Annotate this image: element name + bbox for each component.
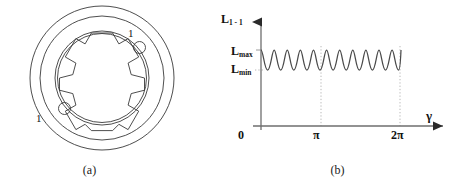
y-axis-title-sub: 1 - 1	[229, 18, 243, 27]
panel-b-caption: (b)	[215, 163, 460, 178]
y-tick-label-lmin: Lmin	[231, 62, 251, 77]
coil-circle-top	[134, 42, 146, 54]
panel-a-caption: (a)	[0, 163, 197, 178]
stator-bore-circle	[55, 31, 149, 125]
rotor-toothed-profile	[60, 33, 145, 131]
inductance-curve	[261, 50, 401, 70]
x-tick-label-2pi: 2π	[391, 128, 404, 143]
y-tick-label-lmax: Lmax	[231, 44, 253, 59]
y-axis-title: L1 - 1	[221, 12, 243, 27]
lmin-main: L	[231, 62, 239, 76]
coil-label-top: 1	[128, 27, 134, 39]
panel-a-diagram: 1 1 (a)	[0, 0, 215, 184]
x-tick-label-pi: π	[313, 128, 320, 143]
coil-label-bottom: 1	[36, 112, 42, 124]
lmin-sub: min	[239, 68, 251, 77]
housing-outer-circle	[30, 6, 174, 150]
lmax-sub: max	[239, 50, 253, 59]
cross-section-svg	[0, 0, 215, 160]
x-axis-title: γ	[426, 108, 432, 124]
inductance-plot-svg	[215, 0, 460, 150]
housing-inner-circle	[40, 16, 164, 140]
coil-circle-bottom	[59, 103, 71, 115]
x-tick-label-0: 0	[238, 128, 244, 143]
y-axis-title-main: L	[221, 12, 229, 26]
figure-container: 1 1 (a)	[0, 0, 460, 184]
panel-b-chart: L1 - 1 Lmax Lmin 0 π 2π γ (b)	[215, 0, 460, 184]
lmax-main: L	[231, 44, 239, 58]
